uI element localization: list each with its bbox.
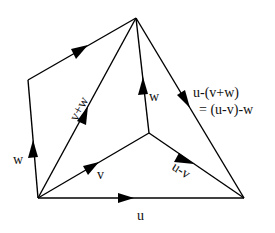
label-w-inner: w xyxy=(149,89,160,104)
label-v: v xyxy=(97,167,104,182)
label-u-minus-v-minus-w: = (u-v)-w xyxy=(199,102,254,118)
label-w-left: w xyxy=(13,152,24,167)
vector-w-left xyxy=(28,80,38,198)
arrowhead-w-inner-icon xyxy=(138,77,148,95)
label-u: u xyxy=(137,208,144,223)
arrowhead-w-left-icon xyxy=(28,140,38,158)
arrowhead-u-minus-v-plus-w-icon xyxy=(177,90,190,108)
arrowhead-u-icon xyxy=(118,193,134,203)
arrowhead-v-top-icon xyxy=(71,45,88,59)
label-v-plus-w: v+w xyxy=(66,94,91,124)
vector-diagram: u v w w v+w u-v u-(v+w) = (u-v)-w xyxy=(0,0,275,233)
vector-u-minus-v xyxy=(149,133,244,198)
label-u-minus-v-plus-w: u-(v+w) xyxy=(193,85,239,101)
